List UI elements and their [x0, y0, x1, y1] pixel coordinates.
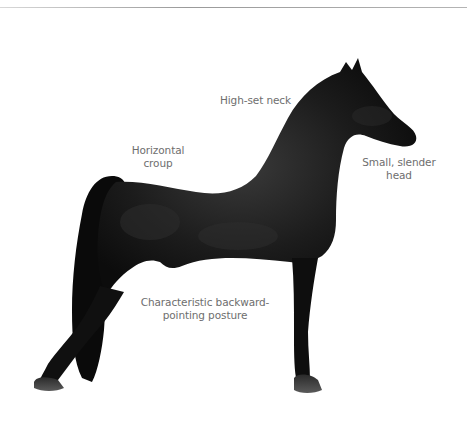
- front-leg: [292, 258, 318, 380]
- annotation-line: croup: [128, 157, 188, 170]
- annotation-line: Small, slender: [356, 156, 442, 169]
- annotated-horse-figure: High-set neck Horizontal croup Small, sl…: [0, 0, 467, 422]
- annotation-horizontal-croup: Horizontal croup: [128, 144, 188, 170]
- hind-hoof: [34, 377, 64, 391]
- annotation-small-slender-head: Small, slender head: [356, 156, 442, 182]
- horse-silhouette-image: [0, 0, 467, 422]
- annotation-line: Characteristic backward-: [130, 296, 280, 309]
- annotation-line: High-set neck: [220, 94, 291, 106]
- annotation-line: head: [356, 169, 442, 182]
- annotation-line: pointing posture: [130, 309, 280, 322]
- front-hoof: [294, 374, 322, 393]
- annotation-line: Horizontal: [128, 144, 188, 157]
- annotation-backward-pointing-posture: Characteristic backward- pointing postur…: [130, 296, 280, 322]
- annotation-high-set-neck: High-set neck: [220, 94, 291, 107]
